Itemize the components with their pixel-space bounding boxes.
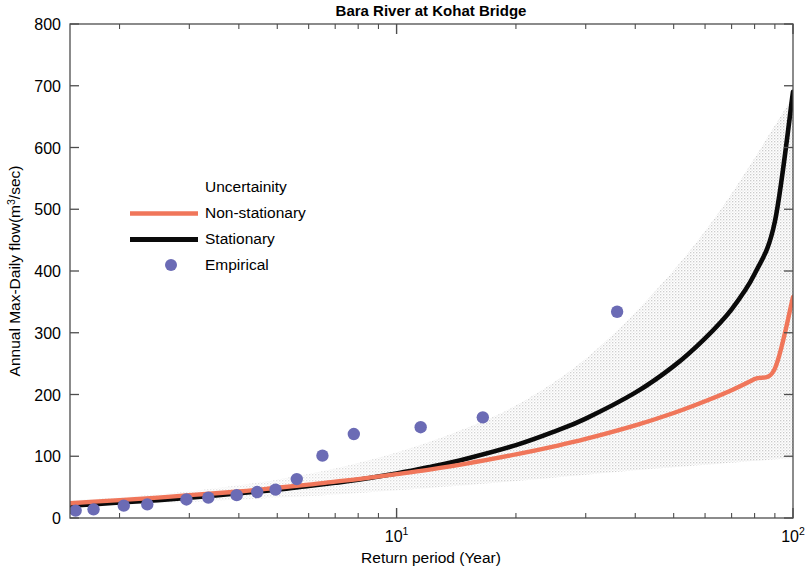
- y-axis-tick-labels: 0100200300400500600700800: [34, 16, 61, 527]
- legend-label: Empirical: [205, 256, 269, 273]
- y-tick-label: 600: [34, 140, 61, 157]
- y-tick-label: 100: [34, 448, 61, 465]
- y-tick-label: 300: [34, 325, 61, 342]
- empirical-data-point: [141, 498, 153, 510]
- empirical-data-point: [230, 489, 242, 501]
- empirical-data-point: [251, 486, 263, 498]
- y-tick-label: 0: [52, 510, 61, 527]
- y-tick-label: 400: [34, 263, 61, 280]
- y-axis-title: Annual Max-Daily flow(m3/sec): [5, 166, 23, 377]
- y-tick-label: 200: [34, 387, 61, 404]
- empirical-data-point: [316, 449, 328, 461]
- chart-svg: 0100200300400500600700800 101102 Bara Ri…: [0, 0, 805, 575]
- legend-dot-swatch: [165, 259, 177, 271]
- empirical-data-point: [87, 503, 99, 515]
- empirical-data-point: [611, 306, 623, 318]
- y-tick-label: 700: [34, 78, 61, 95]
- y-tick-label: 800: [34, 16, 61, 33]
- x-axis-title: Return period (Year): [361, 549, 501, 566]
- empirical-data-point: [291, 473, 303, 485]
- y-tick-label: 500: [34, 201, 61, 218]
- empirical-data-point: [348, 428, 360, 440]
- chart-figure: 0100200300400500600700800 101102 Bara Ri…: [0, 0, 805, 575]
- legend-label: Stationary: [205, 230, 275, 247]
- empirical-data-point: [69, 504, 81, 516]
- empirical-data-point: [477, 411, 489, 423]
- legend-label: Non-stationary: [205, 204, 306, 221]
- empirical-data-point: [202, 491, 214, 503]
- empirical-data-point: [414, 421, 426, 433]
- empirical-data-point: [269, 483, 281, 495]
- chart-title: Bara River at Kohat Bridge: [336, 2, 527, 19]
- empirical-data-point: [180, 493, 192, 505]
- empirical-data-point: [118, 499, 130, 511]
- legend-label: Uncertainity: [205, 178, 287, 195]
